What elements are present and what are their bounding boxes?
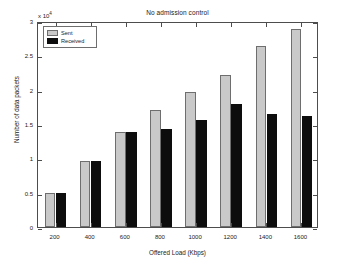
y-axis-tick-mark <box>313 160 317 161</box>
bar-group <box>256 23 278 227</box>
bar-group <box>291 23 313 227</box>
x-axis-title: Offered Load (Kbps) <box>37 249 318 256</box>
x-axis-tick-label: 200 <box>35 234 75 240</box>
legend-label-sent: Sent <box>61 30 73 37</box>
bar-received <box>267 114 278 227</box>
y-axis-exponent-power: 4 <box>49 11 52 16</box>
y-axis-tick-label: 2.5 <box>3 53 33 59</box>
bar-sent <box>291 29 302 227</box>
bar-received <box>126 132 137 227</box>
x-axis-tick-mark <box>126 23 127 27</box>
x-axis-tick-label: 400 <box>70 234 110 240</box>
bar-sent <box>80 161 91 227</box>
y-axis-tick-mark <box>313 23 317 24</box>
y-axis-exponent-base: x 10 <box>38 13 49 19</box>
y-axis-tick-label: 0.5 <box>3 191 33 197</box>
y-axis-tick-mark <box>313 92 317 93</box>
y-axis-tick-label: 1.5 <box>3 122 33 128</box>
chart-title: No admission control <box>37 9 318 16</box>
legend-swatch-received-icon <box>47 38 58 44</box>
x-axis-tick-mark <box>301 23 302 27</box>
y-axis-tick-label: 0 <box>3 225 33 231</box>
bar-received <box>56 193 67 227</box>
x-axis-tick-label: 800 <box>140 234 180 240</box>
figure-canvas: No admission control x 104 Number of dat… <box>0 0 337 273</box>
y-axis-tick-mark <box>313 195 317 196</box>
y-axis-tick-label: 1 <box>3 156 33 162</box>
y-axis-exponent-label: x 104 <box>38 11 52 19</box>
y-axis-tick-mark <box>313 229 317 230</box>
plot-area <box>37 22 318 228</box>
x-axis-tick-mark <box>196 23 197 27</box>
bar-sent <box>220 75 231 227</box>
y-axis-tick-mark <box>38 126 42 127</box>
bar-group <box>220 23 242 227</box>
chart-legend: Sent Received <box>43 26 97 48</box>
bar-group <box>45 23 67 227</box>
bar-received <box>302 116 313 227</box>
y-axis-tick-mark <box>38 229 42 230</box>
x-axis-tick-mark <box>231 223 232 227</box>
bar-received <box>196 120 207 227</box>
x-axis-tick-mark <box>161 23 162 27</box>
x-axis-tick-mark <box>301 223 302 227</box>
legend-swatch-sent-icon <box>47 30 58 36</box>
bar-received <box>231 104 242 227</box>
legend-label-received: Received <box>61 38 84 45</box>
legend-item-received: Received <box>47 37 93 45</box>
y-axis-tick-mark <box>313 57 317 58</box>
y-axis-tick-labels: 00.511.522.53 <box>0 22 33 228</box>
y-axis-tick-label: 2 <box>3 88 33 94</box>
bar-sent <box>115 132 126 227</box>
x-axis-tick-label: 1000 <box>175 234 215 240</box>
bar-group <box>185 23 207 227</box>
x-axis-tick-mark <box>126 223 127 227</box>
x-axis-tick-mark <box>196 223 197 227</box>
x-axis-tick-mark <box>56 223 57 227</box>
x-axis-tick-labels: 2004006008001000120014001600 <box>37 231 318 245</box>
x-axis-tick-label: 1600 <box>280 234 320 240</box>
x-axis-tick-mark <box>231 23 232 27</box>
bar-group <box>115 23 137 227</box>
x-axis-tick-mark <box>91 223 92 227</box>
bar-received <box>161 129 172 227</box>
y-axis-tick-mark <box>38 57 42 58</box>
y-axis-tick-mark <box>38 23 42 24</box>
legend-item-sent: Sent <box>47 29 93 37</box>
x-axis-tick-label: 1200 <box>210 234 250 240</box>
x-axis-tick-label: 600 <box>105 234 145 240</box>
bars-layer <box>38 23 317 227</box>
x-axis-tick-mark <box>266 223 267 227</box>
y-axis-tick-mark <box>38 92 42 93</box>
bar-sent <box>256 46 267 227</box>
y-axis-tick-mark <box>38 160 42 161</box>
x-axis-tick-label: 1400 <box>245 234 285 240</box>
x-axis-tick-mark <box>161 223 162 227</box>
y-axis-tick-label: 3 <box>3 19 33 25</box>
y-axis-tick-mark <box>313 126 317 127</box>
x-axis-tick-mark <box>266 23 267 27</box>
bar-sent <box>185 92 196 227</box>
bar-received <box>91 161 102 227</box>
bar-sent <box>150 110 161 227</box>
bar-group <box>150 23 172 227</box>
bar-sent <box>45 193 56 227</box>
y-axis-tick-mark <box>38 195 42 196</box>
bar-group <box>80 23 102 227</box>
